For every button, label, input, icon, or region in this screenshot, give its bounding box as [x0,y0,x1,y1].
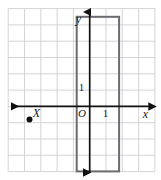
origin-label: O [78,107,86,119]
y-tick-label-1: 1 [79,81,85,93]
coordinate-plane-figure: y x O 1 1 X [0,0,161,180]
point-label-x: X [32,106,41,120]
y-axis-label: y [75,12,82,26]
x-axis-label: x [142,107,149,121]
rectangle-outline [77,17,119,172]
point-marker-x [27,117,33,123]
x-tick-label-1: 1 [103,107,109,119]
coordinate-plane-svg: y x O 1 1 X [0,0,161,180]
